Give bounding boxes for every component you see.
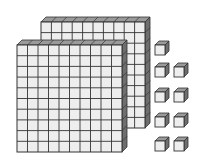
unit-cube — [174, 137, 188, 151]
base-ten-blocks-diagram — [0, 0, 199, 158]
hundred-flat-front — [17, 40, 127, 152]
unit-cube — [155, 41, 169, 55]
unit-cube — [174, 113, 188, 127]
unit-cube — [155, 113, 169, 127]
unit-cubes — [155, 41, 188, 151]
unit-cube — [155, 137, 169, 151]
unit-cube — [155, 63, 169, 77]
unit-cube — [174, 63, 188, 77]
unit-cube — [174, 88, 188, 102]
unit-cube — [155, 88, 169, 102]
